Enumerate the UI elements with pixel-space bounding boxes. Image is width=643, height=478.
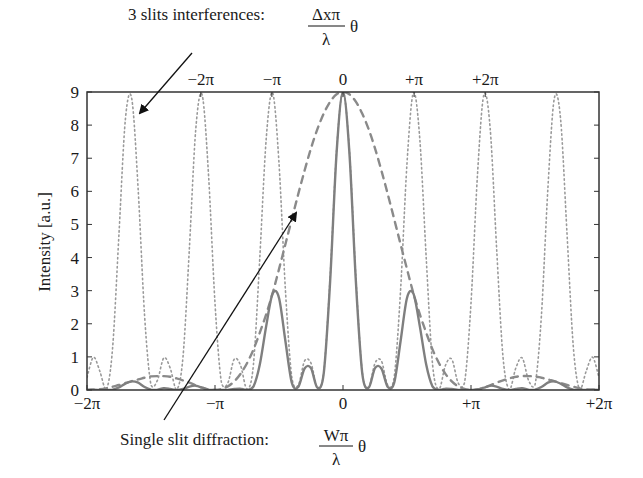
chart: 0123456789 −2π−π0+π+2π −2π−π0+π+2π Inten… [0,0,643,478]
x-bottom-tick-label: −2π [74,394,101,413]
annotation-diffraction-denominator: λ [332,450,341,469]
annotation-diffraction-text: Single slit diffraction: [120,430,269,449]
x-top-tick-label: +2π [472,70,499,89]
y-tick-label: 9 [71,83,80,102]
y-tick-label: 8 [71,116,80,135]
annotation-diffraction-numerator: Wπ [324,426,349,445]
y-tick-label: 7 [71,149,80,168]
x-top-tick-label: −2π [187,70,214,89]
annotation-interference: 3 slits interferences: Δxπ λ θ [128,5,358,113]
y-tick-label: 1 [71,348,80,367]
x-bottom-tick-label: 0 [339,394,348,413]
x-bottom-tick-label: +π [462,394,481,413]
x-top-tick-label: −π [263,70,282,89]
x-top-tick-label: +π [405,70,424,89]
arrow-icon [140,53,192,113]
plot-frame [87,92,599,390]
y-tick-label: 2 [71,315,80,334]
y-axis-label: Intensity [a.u.] [35,192,54,292]
y-tick-label: 6 [71,182,80,201]
x-top-tick-label: 0 [339,70,348,89]
x-axis-top-ticks: −2π−π0+π+2π [187,70,499,97]
annotation-interference-denominator: λ [322,30,331,49]
y-tick-label: 3 [71,282,80,301]
x-bottom-tick-label: −π [206,394,225,413]
annotation-diffraction-theta: θ [358,437,366,456]
y-axis-ticks: 0123456789 [71,83,600,400]
annotation-interference-text: 3 slits interferences: [128,5,265,24]
annotation-diffraction: Single slit diffraction: Wπ λ θ [120,213,366,469]
series-dashed-line [87,92,599,390]
series-solid-line [87,92,599,390]
y-tick-label: 4 [71,249,80,268]
annotation-interference-numerator: Δxπ [312,5,340,24]
plot-area [87,92,599,390]
annotation-interference-theta: θ [350,17,358,36]
y-tick-label: 5 [71,215,80,234]
series-dotted-line [87,92,599,390]
x-bottom-tick-label: +2π [586,394,613,413]
